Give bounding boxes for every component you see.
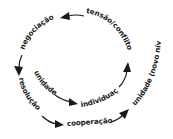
label-cooperacao: cooperação <box>67 116 113 128</box>
label-unidade: unidade <box>32 69 59 97</box>
arrow-resolution-to-cooperation-icon <box>42 116 64 128</box>
arrow-unity-to-individuation-icon <box>55 95 78 106</box>
arrow-tension-to-negotiation-icon <box>60 12 84 20</box>
arrow-cooperation-to-new-unity-icon <box>111 109 129 122</box>
label-negociacao: negociação <box>18 12 56 50</box>
arrow-individuation-to-tension-icon <box>119 62 131 87</box>
spiral-diagram: unidade individuação tensão/conflito neg… <box>0 0 173 139</box>
arrow-negotiation-to-resolution-icon <box>14 55 23 76</box>
label-tensao-conflito: tensão/conflito <box>86 6 135 51</box>
